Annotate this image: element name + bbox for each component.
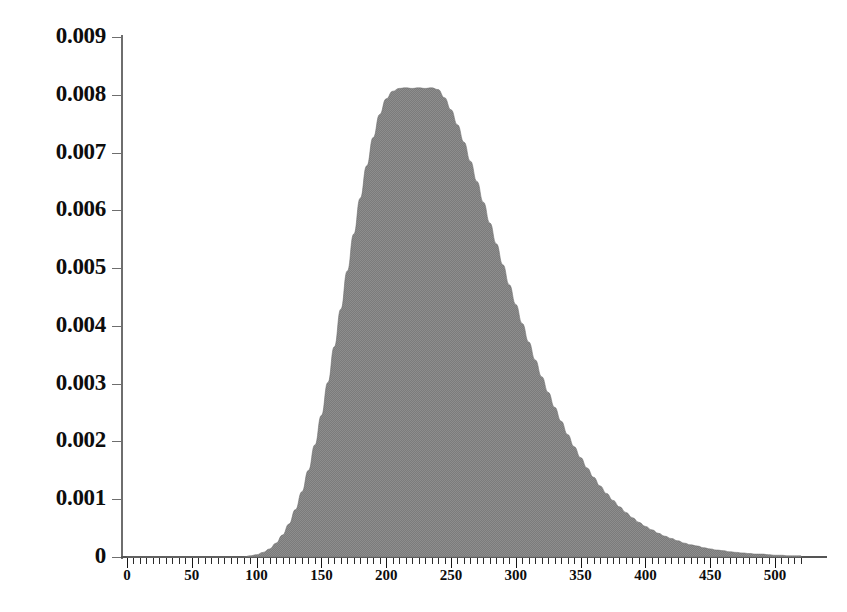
x-axis-minor-tick [140, 558, 141, 564]
x-axis-minor-tick [658, 558, 659, 564]
x-axis-minor-tick [250, 558, 251, 564]
y-axis-tick [112, 95, 121, 96]
y-axis-line [121, 35, 123, 559]
x-axis-tick-label: 400 [634, 568, 657, 583]
y-axis-tick [112, 153, 121, 154]
y-axis-tick [112, 441, 121, 442]
y-axis-tick-label: 0.006 [0, 197, 106, 220]
x-axis-minor-tick [146, 558, 147, 564]
x-axis-minor-tick [263, 558, 264, 564]
x-axis-minor-tick [619, 558, 620, 564]
x-axis-minor-tick [704, 558, 705, 564]
x-axis-minor-tick [613, 558, 614, 564]
y-axis-tick-label: 0.005 [0, 255, 106, 278]
x-axis-minor-tick [769, 558, 770, 564]
x-axis-minor-tick [639, 558, 640, 564]
x-axis-minor-tick [218, 558, 219, 564]
x-axis-minor-tick [548, 558, 549, 564]
x-axis-minor-tick [380, 558, 381, 564]
x-axis-minor-tick [542, 558, 543, 564]
x-axis-minor-tick [691, 558, 692, 564]
x-axis-minor-tick [568, 558, 569, 564]
x-axis-minor-tick [509, 558, 510, 564]
x-axis-minor-tick [730, 558, 731, 564]
x-axis-minor-tick [535, 558, 536, 564]
x-axis-minor-tick [334, 558, 335, 564]
x-axis-minor-tick [756, 558, 757, 564]
x-axis-minor-tick [172, 558, 173, 564]
x-axis-tick-label: 50 [184, 568, 199, 583]
x-axis-tick-label: 200 [375, 568, 398, 583]
y-axis-tick-label: 0.007 [0, 140, 106, 163]
x-axis-minor-tick [153, 558, 154, 564]
x-axis-minor-tick [393, 558, 394, 564]
x-axis-minor-tick [490, 558, 491, 564]
x-axis-minor-tick [315, 558, 316, 564]
x-axis-minor-tick [276, 558, 277, 564]
distribution-area-series [0, 0, 847, 612]
x-axis-minor-tick [185, 558, 186, 564]
x-axis-minor-tick [360, 558, 361, 564]
x-axis-minor-tick [341, 558, 342, 564]
x-axis-minor-tick [237, 558, 238, 564]
x-axis-minor-tick [794, 558, 795, 564]
x-axis-minor-tick [470, 558, 471, 564]
x-axis-minor-tick [477, 558, 478, 564]
x-axis-minor-tick [367, 558, 368, 564]
x-axis-minor-tick [697, 558, 698, 564]
x-axis-minor-tick [308, 558, 309, 564]
x-axis-minor-tick [302, 558, 303, 564]
x-axis-minor-tick [762, 558, 763, 564]
x-axis-minor-tick [270, 558, 271, 564]
x-axis-minor-tick [736, 558, 737, 564]
x-axis-minor-tick [781, 558, 782, 564]
x-axis-minor-tick [555, 558, 556, 564]
x-axis-minor-tick [743, 558, 744, 564]
y-axis-tick-label: 0.009 [0, 24, 106, 47]
x-axis-minor-tick [179, 558, 180, 564]
x-axis-minor-tick [283, 558, 284, 564]
x-axis-minor-tick [438, 558, 439, 564]
x-axis-minor-tick [166, 558, 167, 564]
x-axis-tick-label: 300 [505, 568, 528, 583]
x-axis-minor-tick [425, 558, 426, 564]
x-axis-minor-tick [652, 558, 653, 564]
x-axis-minor-tick [723, 558, 724, 564]
x-axis-tick-label: 150 [310, 568, 333, 583]
y-axis-tick-label: 0 [0, 544, 106, 567]
x-axis-minor-tick [198, 558, 199, 564]
x-axis-line [121, 556, 827, 558]
x-axis-minor-tick [464, 558, 465, 564]
x-axis-minor-tick [419, 558, 420, 564]
x-axis-minor-tick [717, 558, 718, 564]
y-axis-tick [112, 326, 121, 327]
x-axis-minor-tick [244, 558, 245, 564]
x-axis-minor-tick [671, 558, 672, 564]
x-axis-minor-tick [445, 558, 446, 564]
x-axis-minor-tick [211, 558, 212, 564]
x-axis-minor-tick [231, 558, 232, 564]
y-axis-tick [112, 210, 121, 211]
x-axis-minor-tick [607, 558, 608, 564]
x-axis-minor-tick [788, 558, 789, 564]
x-axis-minor-tick [503, 558, 504, 564]
x-axis-minor-tick [483, 558, 484, 564]
x-axis-minor-tick [406, 558, 407, 564]
x-axis-minor-tick [399, 558, 400, 564]
x-axis-tick-label: 250 [440, 568, 463, 583]
distribution-chart: 00.0010.0020.0030.0040.0050.0060.0070.00… [0, 0, 847, 612]
x-axis-tick-label: 0 [123, 568, 131, 583]
y-axis-tick-label: 0.003 [0, 371, 106, 394]
y-axis-tick-label: 0.008 [0, 82, 106, 105]
x-axis-tick-label: 350 [569, 568, 592, 583]
x-axis-minor-tick [496, 558, 497, 564]
x-axis-minor-tick [529, 558, 530, 564]
x-axis-minor-tick [561, 558, 562, 564]
y-axis-tick [112, 499, 121, 500]
x-axis-tick-label: 450 [699, 568, 722, 583]
y-axis-tick [112, 268, 121, 269]
x-axis-minor-tick [749, 558, 750, 564]
x-axis-minor-tick [412, 558, 413, 564]
x-axis-minor-tick [632, 558, 633, 564]
x-axis-minor-tick [373, 558, 374, 564]
